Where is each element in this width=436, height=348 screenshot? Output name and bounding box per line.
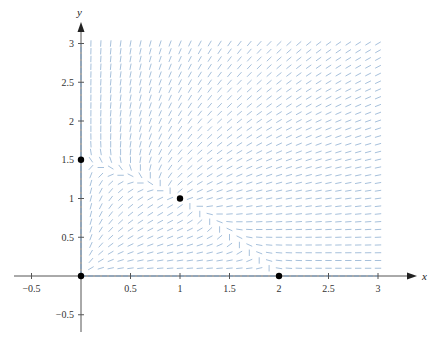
field-segment: [208, 111, 212, 116]
field-segment: [217, 95, 221, 100]
field-segment: [130, 40, 131, 46]
field-segment: [247, 80, 252, 84]
field-segment: [130, 102, 131, 108]
field-segment: [237, 236, 243, 239]
field-segment: [336, 81, 342, 84]
field-segment: [335, 112, 341, 115]
field-segment: [365, 128, 371, 130]
field-segment: [345, 214, 351, 215]
field-segment: [375, 151, 381, 153]
field-segment: [365, 136, 371, 138]
field-segment: [237, 103, 242, 107]
field-segment: [267, 57, 272, 61]
field-segment: [375, 42, 381, 45]
field-segment: [316, 167, 322, 169]
field-segment: [236, 174, 242, 177]
field-segment: [118, 260, 124, 262]
field-segment: [365, 159, 371, 161]
field-segment: [247, 49, 251, 54]
field-segment: [276, 268, 282, 269]
field-segment: [177, 228, 183, 231]
field-segment: [98, 259, 104, 262]
field-segment: [226, 221, 232, 222]
field-segment: [179, 48, 182, 54]
equilibrium-point: [78, 157, 84, 163]
field-segment: [90, 219, 92, 225]
field-segment: [315, 214, 321, 215]
field-segment: [148, 220, 154, 223]
field-segment: [118, 243, 124, 246]
field-segment: [306, 214, 312, 215]
field-segment: [236, 182, 242, 184]
field-segment: [218, 41, 221, 46]
field-segment: [246, 198, 252, 199]
field-segment: [286, 214, 292, 215]
field-segment: [89, 165, 93, 170]
field-segment: [296, 127, 302, 130]
field-segment: [168, 165, 172, 170]
field-segment: [207, 190, 213, 192]
field-segment: [216, 260, 222, 261]
field-segment: [128, 189, 133, 192]
field-segment: [159, 165, 162, 171]
field-segment: [276, 174, 282, 176]
field-segment: [90, 195, 92, 201]
field-segment: [226, 260, 232, 261]
field-segment: [227, 142, 232, 146]
field-segment: [247, 111, 252, 115]
field-segment: [198, 87, 202, 92]
field-segment: [316, 73, 321, 76]
field-segment: [237, 111, 242, 115]
field-segment: [217, 103, 221, 108]
field-segment: [159, 64, 161, 70]
field-segment: [137, 252, 143, 254]
field-segment: [187, 252, 193, 253]
field-segment: [237, 251, 243, 254]
field-segment: [237, 41, 241, 46]
field-segment: [345, 96, 351, 99]
field-segment: [227, 243, 232, 247]
field-segment: [169, 72, 172, 78]
direction-field-segments: [88, 40, 381, 271]
field-segment: [256, 143, 262, 146]
field-segment: [120, 87, 121, 93]
field-segment: [149, 40, 151, 46]
field-segment: [315, 198, 321, 199]
field-segment: [169, 103, 172, 109]
field-segment: [140, 157, 141, 163]
field-segment: [177, 220, 183, 223]
direction-field-chart: x y −0.50.511.522.53−0.50.511.522.53: [0, 0, 436, 348]
field-segment: [345, 143, 351, 145]
field-segment: [108, 235, 113, 239]
field-segment: [99, 173, 103, 178]
field-segment: [246, 214, 252, 215]
field-segment: [286, 151, 292, 153]
field-segment: [228, 64, 232, 69]
field-segment: [188, 56, 191, 62]
field-segment: [375, 57, 381, 60]
field-segment: [110, 110, 111, 116]
field-segment: [188, 111, 192, 116]
field-segment: [169, 118, 172, 124]
field-segment: [110, 71, 111, 77]
field-segment: [247, 119, 252, 123]
x-tick-label: 3: [376, 283, 381, 294]
field-segment: [375, 65, 381, 68]
x-tick-label: 0.5: [124, 283, 137, 294]
field-segment: [149, 134, 151, 140]
field-segment: [276, 96, 281, 100]
field-segment: [110, 157, 112, 163]
field-segment: [159, 134, 162, 140]
field-segment: [335, 151, 341, 153]
field-segment: [286, 221, 292, 222]
field-segment: [237, 64, 241, 69]
field-segment: [326, 81, 332, 84]
field-segment: [277, 57, 282, 61]
field-segment: [140, 133, 142, 139]
field-segment: [267, 88, 272, 92]
field-segment: [118, 204, 123, 209]
field-segment: [226, 252, 232, 254]
field-segment: [256, 182, 262, 184]
field-segment: [207, 158, 212, 162]
field-segment: [335, 190, 341, 191]
